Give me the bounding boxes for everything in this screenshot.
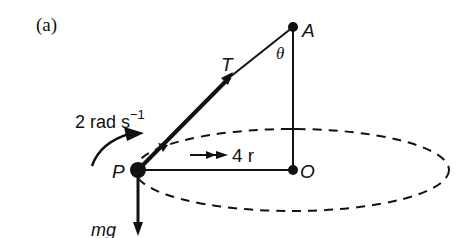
radius-arrow-icon-1 bbox=[206, 151, 216, 159]
point-a bbox=[288, 22, 298, 32]
label-angular-velocity: 2 rad s−1 bbox=[75, 107, 145, 132]
conical-pendulum-diagram: (a) A O P T θ 4 r mg 2 rad s−1 bbox=[0, 0, 474, 238]
label-a: A bbox=[301, 20, 315, 41]
radius-arrow-icon-2 bbox=[216, 151, 228, 159]
label-weight: mg bbox=[91, 220, 116, 238]
panel-label: (a) bbox=[36, 14, 57, 36]
point-o bbox=[288, 165, 298, 175]
label-radius: 4 r bbox=[232, 145, 255, 166]
label-theta: θ bbox=[276, 44, 284, 63]
weight-arrow-icon bbox=[133, 222, 143, 236]
point-p bbox=[130, 162, 146, 178]
label-o: O bbox=[300, 161, 315, 182]
label-tension: T bbox=[221, 54, 234, 75]
label-p: P bbox=[112, 161, 125, 182]
